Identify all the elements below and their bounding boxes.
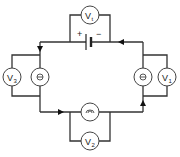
voltmeter-v3-letter: V (7, 73, 13, 83)
bulb-bottom (81, 103, 99, 121)
battery-negative-label: − (96, 29, 101, 39)
left-branch: V 3 (3, 55, 49, 96)
battery-positive-label: + (77, 29, 82, 39)
voltmeter-v1-letter: V (162, 73, 168, 83)
right-branch: V 1 (134, 55, 176, 96)
arrow-up-icon (140, 100, 146, 106)
arrow-right-icon (58, 109, 64, 115)
voltmeter-v2-letter: V (85, 137, 91, 147)
arrow-left-icon (118, 39, 124, 45)
voltmeter-vt-letter: V (85, 11, 91, 21)
bottom-branch: V 2 (70, 103, 110, 150)
circuit-diagram: + − V t V 3 V 1 V 2 (0, 0, 180, 157)
main-loop (40, 42, 143, 112)
arrow-down-icon (37, 46, 43, 52)
battery: + − (77, 29, 101, 50)
